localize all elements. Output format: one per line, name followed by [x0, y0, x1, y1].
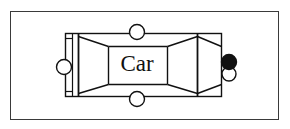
- car-object-group[interactable]: Car: [66, 34, 222, 97]
- handle-right-active[interactable]: [222, 55, 237, 70]
- car-diagram[interactable]: Car: [0, 0, 290, 129]
- handle-left-middle[interactable]: [57, 60, 72, 75]
- handle-bottom-middle[interactable]: [130, 92, 145, 107]
- car-label: Car: [120, 51, 154, 76]
- handle-top-middle[interactable]: [130, 25, 145, 40]
- screenshot-canvas: Car: [0, 0, 290, 129]
